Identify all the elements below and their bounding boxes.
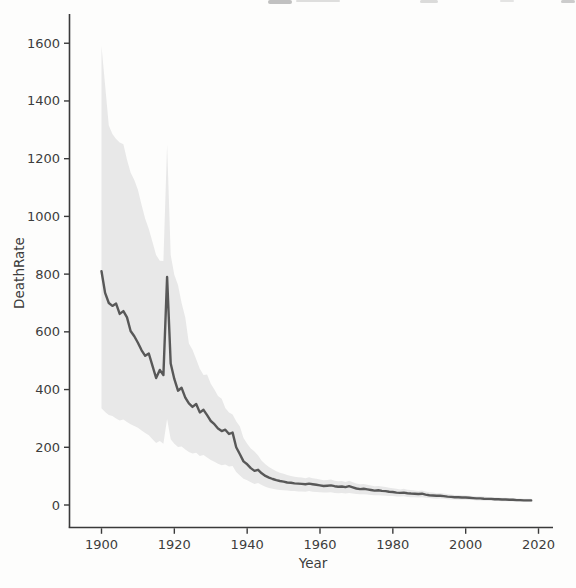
x-tick-label: 1960 [303,537,336,552]
x-tick-label: 1920 [158,537,191,552]
scanned-chart-page: 0200400600800100012001400160019001920194… [0,0,576,588]
x-tick-label: 1900 [85,537,118,552]
y-axis-label: DeathRate [11,237,27,309]
y-tick-label: 1600 [27,36,60,51]
y-tick-label: 200 [35,440,60,455]
x-tick-label: 1980 [376,537,409,552]
x-tick-label: 2000 [449,537,482,552]
deathrate-vs-year-chart: 0200400600800100012001400160019001920194… [0,0,576,588]
plot-area [102,46,532,502]
y-tick-label: 800 [35,267,60,282]
x-tick-label: 2020 [522,537,555,552]
y-tick-label: 0 [52,498,60,513]
y-tick-label: 1200 [27,151,60,166]
x-tick-label: 1940 [231,537,264,552]
y-tick-label: 400 [35,382,60,397]
y-tick-label: 600 [35,324,60,339]
y-tick-label: 1000 [27,209,60,224]
y-tick-label: 1400 [27,93,60,108]
x-axis-label: Year [298,555,328,571]
confidence-band [102,46,532,502]
